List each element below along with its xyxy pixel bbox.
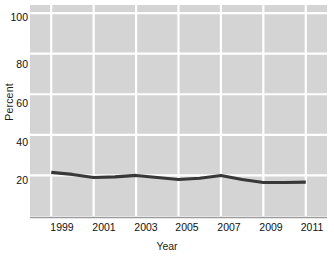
- x-tick-label-2009: 2009: [251, 222, 291, 233]
- y-tick-label-40: 40: [4, 137, 28, 148]
- y-tick-label-80: 80: [4, 59, 28, 70]
- y-tick-label-100: 100: [4, 12, 28, 23]
- y-tick-label-60: 60: [4, 98, 28, 109]
- x-tick-label-2005: 2005: [167, 222, 207, 233]
- x-axis-title: Year: [0, 240, 334, 252]
- x-tick-label-2007: 2007: [209, 222, 249, 233]
- y-tick-label-20: 20: [4, 175, 28, 186]
- x-tick-label-2001: 2001: [84, 222, 124, 233]
- line-chart: Percent Year 100 80 60 40 20 1999 2001 2…: [0, 0, 334, 258]
- x-tick-label-2011: 2011: [292, 222, 332, 233]
- x-tick-label-1999: 1999: [42, 222, 82, 233]
- x-tick-label-2003: 2003: [126, 222, 166, 233]
- plot-area: [0, 0, 334, 258]
